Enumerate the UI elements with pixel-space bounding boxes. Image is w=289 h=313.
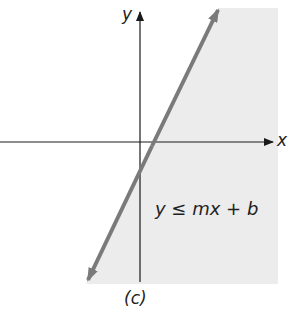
y-axis-label: y <box>122 4 132 24</box>
shaded-region <box>86 8 278 284</box>
figure-caption: (c) <box>124 288 147 308</box>
inequality-label: y ≤ mx + b <box>155 198 258 219</box>
graph-canvas <box>0 0 289 313</box>
x-axis-label: x <box>277 130 287 150</box>
